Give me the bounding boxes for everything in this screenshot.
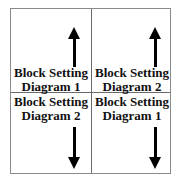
cell-label: Block Setting Diagram 2	[11, 95, 91, 123]
up-arrow-icon	[148, 27, 162, 67]
cell-label: Block Setting Diagram 1	[11, 66, 91, 94]
cell-label: Block Setting Diagram 1	[92, 95, 172, 123]
cell-bottom-right: Block Setting Diagram 1	[92, 93, 172, 176]
cell-top-right: Block Setting Diagram 2	[92, 9, 172, 92]
down-arrow-icon	[67, 127, 81, 169]
block-setting-grid: Block Setting Diagram 1 Block Setting Di…	[10, 8, 171, 174]
up-arrow-icon	[67, 27, 81, 67]
cell-top-left: Block Setting Diagram 1	[11, 9, 91, 92]
cell-bottom-left: Block Setting Diagram 2	[11, 93, 91, 176]
down-arrow-icon	[148, 127, 162, 169]
cell-label: Block Setting Diagram 2	[92, 66, 172, 94]
